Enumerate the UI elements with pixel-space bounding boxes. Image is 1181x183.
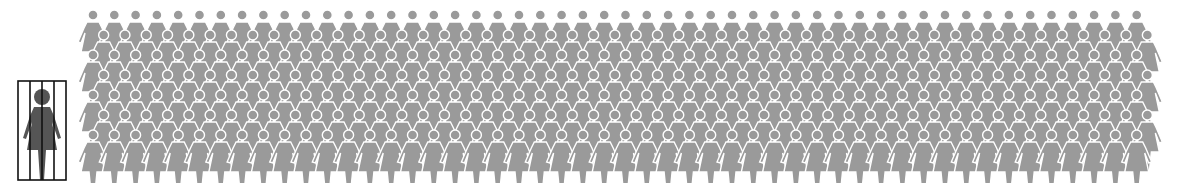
jail-bars (18, 81, 66, 180)
crowd-of-women-icon (70, 0, 1181, 183)
jailed-woman-icon (17, 80, 67, 181)
